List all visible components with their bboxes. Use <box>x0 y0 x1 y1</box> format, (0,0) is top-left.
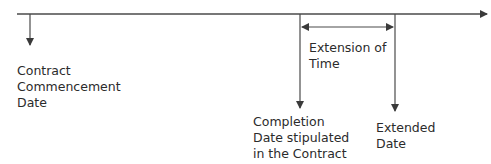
extension-of-time-label: Extension of Time <box>309 40 386 72</box>
completion-label: Completion Date stipulated in the Contra… <box>253 114 349 162</box>
extended-date-label: Extended Date <box>376 120 435 152</box>
commencement-label: Contract Commencement Date <box>17 63 121 111</box>
